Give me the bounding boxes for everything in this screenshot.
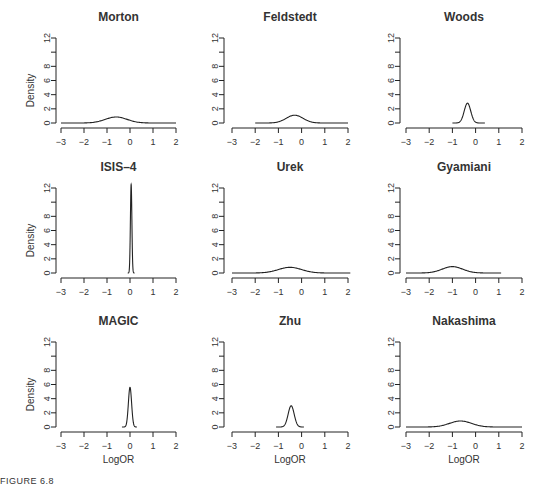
x-tick-label: 1: [322, 441, 327, 451]
y-tick-label: 0: [210, 424, 220, 429]
y-tick-label: 4: [42, 396, 52, 401]
y-tick-label: 4: [42, 92, 52, 97]
density-curve: [406, 267, 501, 273]
y-tick-label: 6: [386, 78, 396, 83]
x-tick-label: −1: [273, 441, 283, 451]
x-axis-label: LogOR: [448, 454, 480, 465]
x-tick-label: −1: [273, 137, 283, 147]
x-tick-label: 1: [496, 441, 501, 451]
x-tick-label: −2: [250, 137, 260, 147]
y-tick-label: 4: [386, 242, 396, 247]
density-curve: [122, 387, 137, 427]
panel-title: Feldstedt: [263, 10, 316, 24]
panel-title: Woods: [444, 10, 484, 24]
density-curve: [232, 267, 350, 273]
x-tick-label: −3: [227, 137, 237, 147]
x-tick-label: 2: [173, 137, 178, 147]
y-tick-label: 4: [386, 92, 396, 97]
y-tick-label: 12: [210, 183, 220, 193]
y-tick-label: 6: [386, 382, 396, 387]
y-tick-label: 6: [386, 228, 396, 233]
panel-title: Nakashima: [432, 314, 496, 328]
y-tick-label: 2: [210, 410, 220, 415]
x-tick-label: 2: [345, 137, 350, 147]
x-tick-label: 1: [322, 137, 327, 147]
x-tick-label: 2: [345, 441, 350, 451]
x-tick-label: −3: [401, 137, 411, 147]
y-tick-label: 12: [210, 337, 220, 347]
y-tick-label: 2: [210, 256, 220, 261]
panel-morton: Morton0246812Density−3−2−1012: [25, 10, 179, 147]
panel-title: MAGIC: [99, 314, 139, 328]
y-tick-label: 12: [42, 33, 52, 43]
x-tick-label: −3: [227, 441, 237, 451]
x-tick-label: −1: [102, 441, 112, 451]
y-tick-label: 8: [386, 64, 396, 69]
x-tick-label: −1: [102, 137, 112, 147]
x-tick-label: −1: [447, 137, 457, 147]
y-tick-label: 12: [386, 337, 396, 347]
x-tick-label: −2: [250, 287, 260, 297]
y-tick-label: 8: [42, 214, 52, 219]
x-tick-label: −3: [227, 287, 237, 297]
y-tick-label: 12: [210, 33, 220, 43]
x-axis-label: LogOR: [103, 454, 135, 465]
y-tick-label: 2: [386, 410, 396, 415]
y-axis-label: Density: [25, 74, 36, 107]
y-tick-label: 0: [42, 120, 52, 125]
x-tick-label: 0: [299, 137, 304, 147]
y-tick-label: 2: [386, 256, 396, 261]
x-tick-label: 0: [127, 287, 132, 297]
x-tick-label: −2: [424, 441, 434, 451]
panel-title: ISIS–4: [100, 160, 136, 174]
x-tick-label: 1: [496, 287, 501, 297]
x-tick-label: 2: [519, 441, 524, 451]
y-tick-label: 8: [42, 64, 52, 69]
y-tick-label: 4: [210, 242, 220, 247]
y-tick-label: 6: [210, 382, 220, 387]
y-tick-label: 12: [386, 33, 396, 43]
x-tick-label: 0: [127, 137, 132, 147]
x-tick-label: −2: [424, 287, 434, 297]
x-tick-label: 0: [473, 137, 478, 147]
x-tick-label: 0: [473, 441, 478, 451]
y-tick-label: 0: [386, 120, 396, 125]
y-tick-label: 0: [210, 270, 220, 275]
panel-isis-4: ISIS–40246812Density−3−2−1012: [25, 160, 179, 297]
panel-woods: Woods0246812−3−2−1012: [386, 10, 525, 147]
x-tick-label: −1: [102, 287, 112, 297]
y-axis-label: Density: [25, 224, 36, 257]
density-curve: [406, 421, 522, 427]
x-tick-label: −2: [250, 441, 260, 451]
x-tick-label: 0: [299, 287, 304, 297]
y-tick-label: 0: [42, 270, 52, 275]
y-tick-label: 2: [386, 106, 396, 111]
panel-magic: MAGIC0246812Density−3−2−1012LogOR: [25, 314, 179, 465]
panel-title: Urek: [277, 160, 304, 174]
panel-nakashima: Nakashima0246812−3−2−1012LogOR: [386, 314, 525, 465]
x-tick-label: −1: [447, 441, 457, 451]
y-tick-label: 8: [210, 64, 220, 69]
y-tick-label: 2: [210, 106, 220, 111]
x-tick-label: −1: [273, 287, 283, 297]
density-curve: [255, 115, 348, 123]
y-tick-label: 0: [386, 424, 396, 429]
x-tick-label: 1: [496, 137, 501, 147]
x-tick-label: −3: [56, 137, 66, 147]
y-tick-label: 8: [210, 214, 220, 219]
x-tick-label: 1: [150, 137, 155, 147]
y-tick-label: 2: [42, 410, 52, 415]
x-tick-label: 2: [173, 441, 178, 451]
density-curve: [452, 103, 484, 123]
x-tick-label: −3: [401, 441, 411, 451]
panel-feldstedt: Feldstedt0246812−3−2−1012: [210, 10, 351, 147]
panel-urek: Urek0246812−3−2−1012: [210, 160, 351, 297]
y-tick-label: 4: [210, 92, 220, 97]
y-tick-label: 4: [42, 242, 52, 247]
x-tick-label: −2: [424, 137, 434, 147]
x-tick-label: −3: [56, 287, 66, 297]
panel-title: Gyamiani: [437, 160, 491, 174]
y-tick-label: 6: [210, 78, 220, 83]
y-tick-label: 12: [42, 337, 52, 347]
x-tick-label: 1: [150, 441, 155, 451]
